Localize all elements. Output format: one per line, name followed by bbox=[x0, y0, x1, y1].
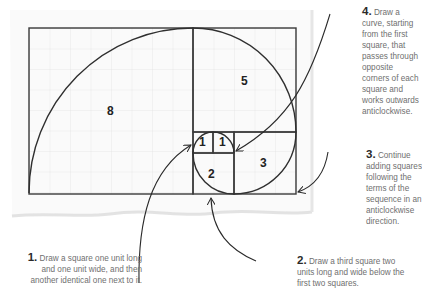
square-label-1b: 1 bbox=[219, 135, 226, 149]
square-label-8: 8 bbox=[107, 104, 114, 118]
step-3-number: 3. bbox=[366, 148, 376, 160]
square-label-1a: 1 bbox=[199, 135, 206, 149]
step-2-annotation: 2. Draw a third square two units long an… bbox=[297, 255, 407, 289]
step-3-annotation: 3. Continue adding squares following the… bbox=[366, 149, 422, 227]
step-1-number: 1. bbox=[28, 251, 38, 263]
step-4-text: Draw a curve, starting from the first sq… bbox=[362, 8, 419, 116]
step-2-text: Draw a third square two units long and w… bbox=[297, 257, 404, 288]
square-label-2: 2 bbox=[208, 167, 215, 181]
step-1-annotation: 1. Draw a square one unit long and one u… bbox=[14, 252, 142, 286]
step-4-number: 4. bbox=[362, 5, 372, 17]
step-2-number: 2. bbox=[297, 254, 307, 266]
square-label-5: 5 bbox=[241, 74, 248, 88]
step-4-annotation: 4. Draw a curve, starting from the first… bbox=[362, 6, 422, 117]
grid bbox=[29, 28, 296, 194]
step-3-text: Continue adding squares following the te… bbox=[366, 151, 422, 226]
step-1-text: Draw a square one unit long and one unit… bbox=[30, 254, 142, 285]
square-label-3: 3 bbox=[260, 156, 267, 170]
